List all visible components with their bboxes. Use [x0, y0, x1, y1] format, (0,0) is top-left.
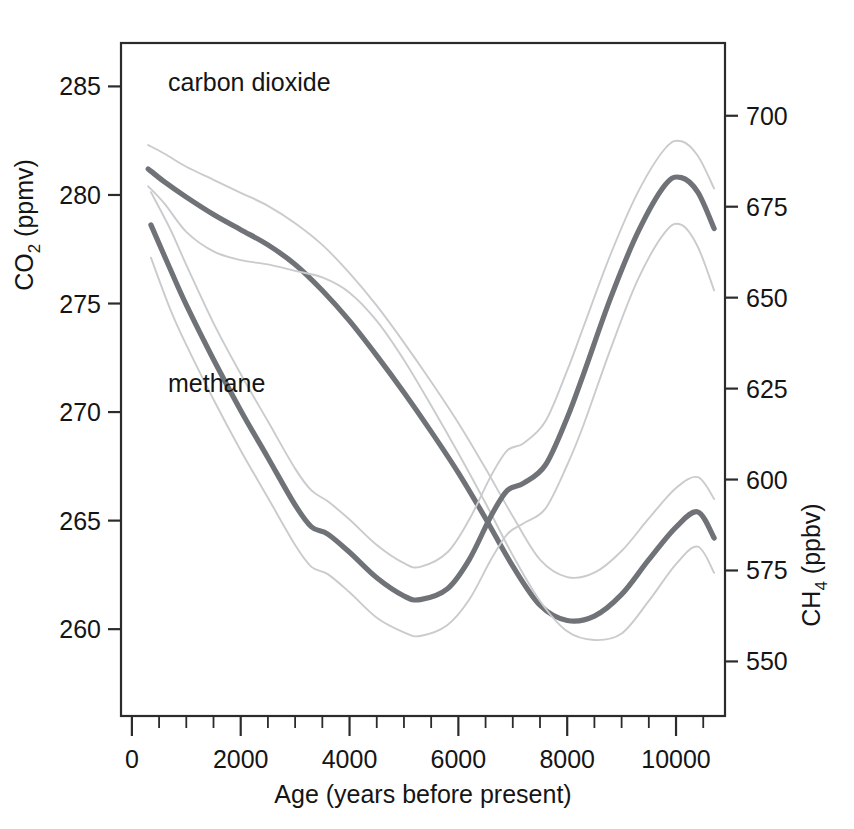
figure-container: 2852802752702652607006756506256005755500…: [0, 0, 854, 829]
y-right-tick-label: 575: [746, 556, 788, 584]
y-left-axis-label-unit: (ppmv): [10, 159, 38, 244]
x-axis-label-group: Age (years before present): [274, 780, 571, 808]
x-tick-label: 8000: [539, 745, 595, 773]
x-tick-label: 0: [125, 745, 139, 773]
y-left-axis-label-main: CO: [10, 253, 38, 291]
y-right-axis-label-group: CH4 (ppbv): [797, 503, 831, 626]
axis-ticks: [108, 86, 738, 736]
y-left-tick-label: 270: [59, 398, 101, 426]
series-label-methane: methane: [168, 369, 265, 397]
series-label-carbon-dioxide: carbon dioxide: [168, 68, 331, 96]
y-left-axis-label-sub: 2: [25, 244, 44, 253]
y-left-tick-label: 275: [59, 290, 101, 318]
y-left-tick-label: 280: [59, 181, 101, 209]
y-right-tick-label: 675: [746, 193, 788, 221]
y-right-tick-label: 700: [746, 102, 788, 130]
y-right-tick-label: 600: [746, 466, 788, 494]
y-right-axis-label-unit: (ppbv): [797, 503, 825, 581]
svg-text:CO2 (ppmv): CO2 (ppmv): [10, 159, 44, 291]
y-right-tick-label: 625: [746, 375, 788, 403]
x-tick-label: 6000: [431, 745, 487, 773]
y-right-tick-label: 550: [746, 647, 788, 675]
x-tick-label: 10000: [641, 745, 711, 773]
chart-canvas: 2852802752702652607006756506256005755500…: [0, 0, 854, 829]
curve-methane-upper-band: [151, 141, 714, 568]
x-axis-label: Age (years before present): [274, 780, 571, 808]
svg-text:CH4 (ppbv): CH4 (ppbv): [797, 503, 831, 626]
x-tick-label: 4000: [322, 745, 378, 773]
y-left-axis-label-group: CO2 (ppmv): [10, 159, 44, 291]
y-left-tick-label: 285: [59, 72, 101, 100]
y-right-axis-label-sub: 4: [812, 581, 831, 590]
y-right-tick-label: 650: [746, 284, 788, 312]
y-right-axis-label-main: CH: [797, 591, 825, 627]
y-left-tick-label: 260: [59, 615, 101, 643]
x-tick-label: 2000: [213, 745, 269, 773]
y-left-tick-label: 265: [59, 507, 101, 535]
